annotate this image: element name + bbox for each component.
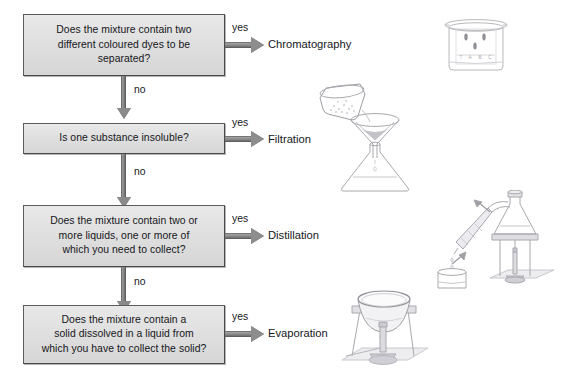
yes-arrow-head <box>251 326 264 342</box>
decision-box-chromatography[interactable]: Does the mixture contain two different c… <box>23 14 225 76</box>
yes-arrow-stem <box>225 331 252 337</box>
no-arrow-stem <box>121 76 126 109</box>
yes-arrow-stem <box>225 233 252 239</box>
flowchart-canvas: Does the mixture contain two different c… <box>0 0 561 386</box>
distillation-apparatus-illustration <box>430 190 561 290</box>
no-label-distillation: no <box>134 276 146 287</box>
no-arrow-stem <box>121 267 126 302</box>
yes-label-evaporation: yes <box>232 311 248 322</box>
decision-box-evaporation[interactable]: Does the mixture contain a solid dissolv… <box>23 305 225 364</box>
spot-label-B: B <box>478 55 481 60</box>
outcome-filtration: Filtration <box>268 133 311 145</box>
yes-arrow-chromatography <box>225 38 265 52</box>
yes-arrow-evaporation <box>225 327 265 341</box>
yes-arrow-distillation <box>225 229 265 243</box>
yes-label-filtration: yes <box>232 117 248 128</box>
decision-box-filtration-text: Is one substance insoluble? <box>59 131 189 145</box>
yes-arrow-head <box>251 37 264 53</box>
outcome-evaporation: Evaporation <box>268 327 328 339</box>
evaporation-apparatus-illustration <box>336 286 440 382</box>
yes-arrow-stem <box>225 42 252 48</box>
no-arrow-stem <box>121 154 126 198</box>
no-label-filtration: no <box>134 166 146 177</box>
outcome-distillation: Distillation <box>268 229 319 241</box>
filtration-apparatus-illustration <box>312 82 418 192</box>
yes-arrow-head <box>251 228 264 244</box>
yes-arrow-stem <box>225 136 252 142</box>
chromatography-apparatus-illustration: T A B C <box>432 12 520 80</box>
decision-box-filtration[interactable]: Is one substance insoluble? <box>23 123 225 154</box>
decision-box-distillation[interactable]: Does the mixture contain two or more liq… <box>23 205 225 267</box>
spot-label-T: T <box>460 55 463 60</box>
no-arrow-head <box>117 108 131 119</box>
no-label-chromatography: no <box>134 84 146 95</box>
decision-box-evaporation-text: Does the mixture contain a solid dissolv… <box>42 313 207 356</box>
yes-label-distillation: yes <box>232 213 248 224</box>
decision-box-distillation-text: Does the mixture contain two or more liq… <box>50 214 198 257</box>
spot-label-C: C <box>488 55 492 60</box>
yes-arrow-head <box>251 131 264 147</box>
yes-label-chromatography: yes <box>232 22 248 33</box>
decision-box-chromatography-text: Does the mixture contain two different c… <box>56 23 191 66</box>
outcome-chromatography: Chromatography <box>268 38 351 50</box>
spot-label-A: A <box>468 55 472 60</box>
yes-arrow-filtration <box>225 132 265 146</box>
